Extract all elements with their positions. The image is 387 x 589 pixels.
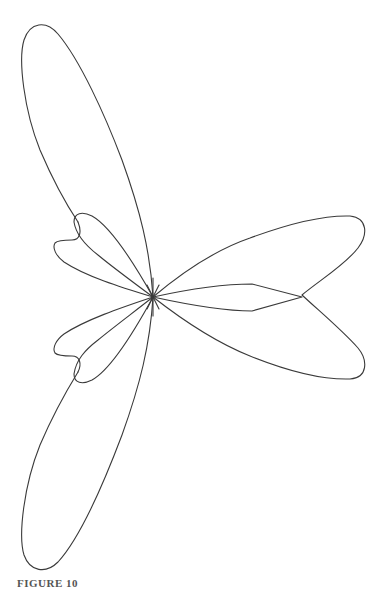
- right-lobe-outer: [153, 216, 365, 379]
- lower-main-lobe: [22, 297, 153, 570]
- figure-caption: FIGURE 10: [17, 577, 387, 589]
- right-inner-lobe: [153, 284, 302, 311]
- upper-main-lobe: [22, 25, 153, 297]
- lower-side-lobe-inner: [74, 297, 153, 383]
